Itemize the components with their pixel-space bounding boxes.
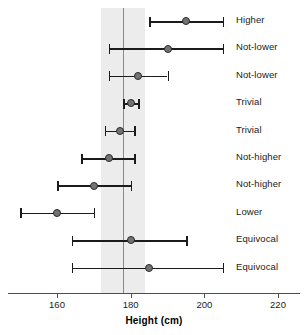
interval-cap-lower [72, 263, 74, 273]
interval-cap-upper [223, 17, 225, 27]
x-tick [204, 294, 205, 298]
x-tick [278, 294, 279, 298]
estimate-point [105, 154, 113, 162]
forest-row: Equivocal [0, 227, 308, 254]
row-label: Lower [236, 206, 262, 217]
estimate-point [145, 264, 153, 272]
interval-cap-upper [94, 208, 96, 218]
row-label: Higher [236, 14, 265, 25]
interval-cap-lower [81, 154, 83, 164]
forest-row: Not-lower [0, 63, 308, 90]
interval-cap-lower [109, 71, 111, 81]
estimate-point [134, 72, 142, 80]
interval-cap-upper [134, 154, 136, 164]
interval-cap-upper [186, 236, 188, 246]
estimate-point [164, 45, 172, 53]
x-tick-label: 200 [196, 299, 212, 310]
forest-plot-figure: HigherNot-lowerNot-lowerTrivialTrivialNo… [0, 0, 308, 335]
forest-row: Trivial [0, 90, 308, 117]
row-label: Not-higher [236, 151, 281, 162]
row-label: Trivial [236, 96, 262, 107]
forest-row: Not-higher [0, 145, 308, 172]
interval-cap-upper [131, 181, 133, 191]
forest-row: Trivial [0, 118, 308, 145]
row-label: Equivocal [236, 233, 278, 244]
x-tick-label: 220 [270, 299, 286, 310]
x-axis-line [8, 293, 300, 294]
forest-row: Equivocal [0, 255, 308, 282]
forest-row: Higher [0, 8, 308, 35]
interval-cap-upper [223, 263, 225, 273]
x-tick-label: 180 [123, 299, 139, 310]
x-axis-label: Height (cm) [0, 315, 308, 326]
row-label: Not-higher [236, 178, 281, 189]
interval-cap-lower [57, 181, 59, 191]
interval-cap-lower [105, 126, 107, 136]
estimate-point [127, 99, 135, 107]
interval-cap-lower [20, 208, 22, 218]
plot-panel: HigherNot-lowerNot-lowerTrivialTrivialNo… [0, 8, 308, 293]
row-label: Trivial [236, 124, 262, 135]
interval-cap-upper [168, 71, 170, 81]
estimate-point [127, 236, 135, 244]
estimate-point [90, 182, 98, 190]
interval-cap-upper [138, 99, 140, 109]
interval-cap-lower [149, 17, 151, 27]
x-tick [57, 294, 58, 298]
forest-row: Not-lower [0, 35, 308, 62]
estimate-point [53, 209, 61, 217]
interval-cap-upper [223, 44, 225, 54]
row-label: Not-lower [236, 69, 278, 80]
interval-cap-lower [123, 99, 125, 109]
x-tick-label: 160 [49, 299, 65, 310]
row-label: Equivocal [236, 261, 278, 272]
row-label: Not-lower [236, 41, 278, 52]
interval-cap-lower [72, 236, 74, 246]
forest-row: Not-higher [0, 172, 308, 199]
estimate-point [182, 17, 190, 25]
forest-row: Lower [0, 200, 308, 227]
estimate-point [116, 127, 124, 135]
interval-cap-lower [109, 44, 111, 54]
x-tick [131, 294, 132, 298]
interval-cap-upper [134, 126, 136, 136]
